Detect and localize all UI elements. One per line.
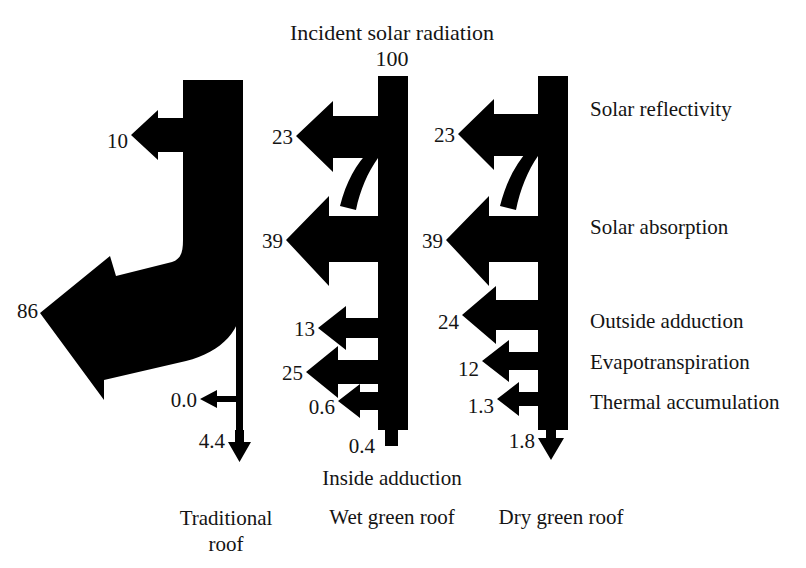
arrow-evapotranspiration-wet-green-roof bbox=[306, 346, 378, 398]
value-outside-adduction-dry-green-roof: 24 bbox=[438, 310, 459, 334]
value-evapotranspiration-dry-green-roof: 12 bbox=[458, 357, 479, 381]
value-inside-adduction-traditional-roof: 4.4 bbox=[199, 429, 225, 453]
bridge-wet-green-roof bbox=[340, 150, 378, 210]
caption-traditional-roof: Traditional roof bbox=[180, 505, 273, 558]
value-solar-reflectivity-traditional-roof: 10 bbox=[107, 129, 128, 153]
caption-traditional-roof-line1: Traditional bbox=[180, 505, 273, 531]
flow-name-solar-absorption: Solar absorption bbox=[590, 215, 728, 239]
trunk-upper-traditional-roof bbox=[183, 80, 243, 240]
column-dry-green-roof-arrows bbox=[446, 76, 568, 460]
value-outside-adduction-wet-green-roof: 13 bbox=[294, 317, 315, 341]
arrow-solar-reflectivity-traditional-roof bbox=[131, 110, 183, 160]
value-thermal-accumulation-dry-green-roof: 1.3 bbox=[468, 394, 494, 418]
value-inside-adduction-dry-green-roof: 1.8 bbox=[509, 429, 535, 453]
value-solar-reflectivity-dry-green-roof: 23 bbox=[434, 123, 455, 147]
bridge-dry-green-roof bbox=[500, 148, 538, 210]
value-solar-absorption-dry-green-roof: 39 bbox=[422, 229, 443, 253]
diagram-title: Incident solar radiation bbox=[290, 20, 494, 45]
arrow-thermal-accumulation-head-wet-green-roof bbox=[338, 384, 378, 418]
energy-flow-diagram: Incident solar radiation 100 10 86 0.0 4… bbox=[0, 0, 806, 568]
arrow-outside-adduction-wet-green-roof bbox=[318, 306, 378, 350]
caption-dry-green-roof-line1: Dry green roof bbox=[499, 505, 624, 529]
arrow-inside-adduction-traditional-roof bbox=[228, 430, 251, 462]
flow-name-solar-reflectivity: Solar reflectivity bbox=[590, 97, 732, 121]
trunk-wet-green-roof bbox=[378, 76, 408, 430]
value-evapotranspiration-wet-green-roof: 25 bbox=[282, 361, 303, 385]
value-solar-absorption-wet-green-roof: 39 bbox=[262, 229, 283, 253]
flow-name-thermal-accumulation: Thermal accumulation bbox=[590, 390, 780, 414]
caption-traditional-roof-line2: roof bbox=[180, 531, 273, 557]
inner-trunk-traditional-roof bbox=[236, 290, 243, 450]
value-solar-absorption-traditional-roof: 86 bbox=[17, 299, 38, 323]
caption-dry-green-roof: Dry green roof bbox=[499, 505, 624, 529]
elbow-absorption-traditional-roof bbox=[40, 240, 243, 400]
input-value-label: 100 bbox=[376, 46, 409, 71]
arrow-solar-absorption-wet-green-roof bbox=[286, 196, 378, 286]
column-traditional-roof-arrows bbox=[40, 80, 251, 462]
value-solar-reflectivity-wet-green-roof: 23 bbox=[272, 125, 293, 149]
flow-name-evapotranspiration: Evapotranspiration bbox=[590, 350, 750, 374]
arrow-thermal-accumulation-dry-green-roof bbox=[497, 382, 538, 416]
flow-name-outside-adduction: Outside adduction bbox=[590, 309, 743, 333]
arrow-solar-absorption-dry-green-roof bbox=[446, 196, 538, 286]
arrow-evapotranspiration-dry-green-roof bbox=[482, 340, 538, 382]
arrow-thermal-accumulation-traditional-roof bbox=[200, 390, 236, 408]
bottom-note-inside-adduction: Inside adduction bbox=[322, 466, 461, 490]
value-thermal-accumulation-wet-green-roof: 0.6 bbox=[309, 395, 335, 419]
value-inside-adduction-wet-green-roof: 0.4 bbox=[349, 434, 375, 458]
column-wet-green-roof-arrows bbox=[286, 76, 408, 446]
trunk-dry-green-roof bbox=[538, 76, 568, 430]
value-thermal-accumulation-traditional-roof: 0.0 bbox=[171, 388, 197, 412]
caption-wet-green-roof: Wet green roof bbox=[329, 505, 454, 529]
caption-wet-green-roof-line1: Wet green roof bbox=[329, 505, 454, 529]
arrow-outside-adduction-dry-green-roof bbox=[462, 286, 538, 344]
